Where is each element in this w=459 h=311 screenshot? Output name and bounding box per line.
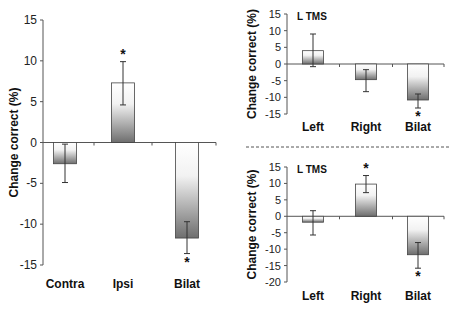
category-label: Left — [302, 120, 324, 134]
y-tick-label: 0 — [275, 210, 281, 222]
y-axis-title: Change correct (%) — [245, 9, 259, 119]
significance-star: * — [415, 268, 421, 284]
y-tick-label: 15 — [269, 161, 281, 173]
y-tick-label: 5 — [30, 95, 37, 109]
chart-bottom-right-ltms: 151050-5-10-15-20Left*Right*BilatChange … — [245, 160, 444, 303]
y-axis-title: Change correct (%) — [7, 87, 21, 197]
figure-canvas: 151050-5-10-15Contra*Ipsi*BilatChange co… — [0, 0, 459, 311]
category-label: Bilat — [405, 289, 431, 303]
y-tick-label: -10 — [265, 243, 281, 255]
y-tick-label: -10 — [265, 91, 281, 103]
y-tick-label: 15 — [24, 13, 38, 27]
category-label: Left — [302, 289, 324, 303]
chart-top-right-ltms: 151050-5-10-15LeftRight*BilatChange corr… — [245, 8, 444, 134]
y-tick-label: -20 — [265, 276, 281, 288]
category-label: Ipsi — [113, 277, 134, 291]
y-tick-label: -5 — [271, 75, 281, 87]
category-label: Bilat — [174, 277, 200, 291]
panel-annotation: L TMS — [297, 11, 327, 22]
y-tick-label: 10 — [269, 177, 281, 189]
y-tick-label: -15 — [265, 260, 281, 272]
significance-star: * — [184, 254, 190, 270]
y-tick-label: 10 — [269, 25, 281, 37]
y-tick-label: -5 — [26, 176, 37, 190]
y-tick-label: -10 — [20, 217, 38, 231]
y-tick-label: 5 — [275, 194, 281, 206]
y-tick-label: -15 — [20, 258, 38, 272]
chart-left-contra-ipsi-bilat: 151050-5-10-15Contra*Ipsi*BilatChange co… — [7, 13, 216, 291]
y-tick-label: 0 — [275, 58, 281, 70]
category-label: Right — [351, 289, 382, 303]
significance-star: * — [363, 160, 369, 176]
y-tick-label: 10 — [24, 54, 38, 68]
category-label: Right — [351, 120, 382, 134]
y-tick-label: -5 — [271, 227, 281, 239]
category-label: Bilat — [405, 120, 431, 134]
category-label: Contra — [46, 277, 85, 291]
y-tick-label: -15 — [265, 108, 281, 120]
y-tick-label: 15 — [269, 8, 281, 20]
y-axis-title: Change correct (%) — [245, 169, 259, 279]
y-tick-label: 0 — [30, 136, 37, 150]
significance-star: * — [120, 46, 126, 62]
y-tick-label: 5 — [275, 41, 281, 53]
panel-annotation: L TMS — [297, 164, 327, 175]
